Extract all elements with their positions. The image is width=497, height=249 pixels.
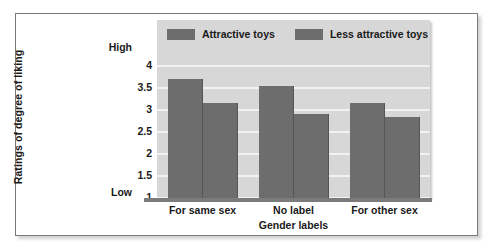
plot-area: Attractive toysLess attractive toys (157, 20, 430, 198)
legend: Attractive toysLess attractive toys (167, 28, 428, 40)
legend-item: Attractive toys (167, 28, 275, 40)
figure-frame: Ratings of degree of liking High Low 43.… (15, 13, 478, 236)
y-axis-title: Ratings of degree of liking (12, 42, 26, 192)
bar (350, 103, 385, 198)
bar (385, 117, 420, 198)
y-tick-label: 3.5 (128, 82, 152, 93)
y-tick-label: 1.5 (128, 170, 152, 181)
legend-label: Less attractive toys (330, 28, 428, 40)
x-axis-title: Gender labels (157, 219, 430, 231)
x-tick-label: For same sex (157, 204, 248, 216)
x-tick-label: For other sex (339, 204, 430, 216)
bar (294, 114, 329, 198)
bars-layer (157, 20, 430, 198)
x-axis-tick-labels: For same sexNo labelFor other sex (157, 204, 430, 218)
y-tick-label: 4 (128, 60, 152, 71)
x-axis-line (144, 198, 432, 202)
legend-swatch (167, 29, 195, 40)
y-axis-high-label: High (94, 41, 132, 53)
legend-label: Attractive toys (202, 28, 275, 40)
y-tick-label: 2 (128, 148, 152, 159)
legend-swatch (295, 29, 323, 40)
legend-item: Less attractive toys (295, 28, 428, 40)
y-axis-low-label: Low (94, 186, 132, 198)
y-axis-tick-labels: 43.532.521.51 (128, 14, 152, 214)
x-tick-label: No label (248, 204, 339, 216)
y-tick-label: 2.5 (128, 126, 152, 137)
bar (168, 79, 203, 198)
bar (203, 103, 238, 198)
y-tick-label: 3 (128, 104, 152, 115)
bar (259, 86, 294, 198)
